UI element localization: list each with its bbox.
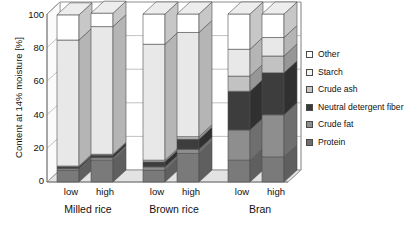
legend-swatch-crude-fat xyxy=(306,121,313,128)
legend-swatch-protein xyxy=(306,139,313,146)
legend-item-starch: Starch xyxy=(306,64,418,82)
bar-column-0 xyxy=(57,3,92,182)
legend-swatch-neutral-detergent-fiber xyxy=(306,104,313,111)
x-category-label-0: low xyxy=(55,186,87,197)
x-group-label-brown-rice: Brown rice xyxy=(138,203,210,215)
chart-figure: Content at 14% moisture [%] 100 80 60 40… xyxy=(0,0,419,232)
bar-column-1 xyxy=(91,1,126,182)
bar-column-5 xyxy=(262,2,297,182)
legend-swatch-starch xyxy=(306,69,313,76)
x-category-label-5: high xyxy=(260,186,292,197)
x-category-label-2: low xyxy=(141,186,173,197)
legend-label-crude-ash: Crude ash xyxy=(318,85,358,94)
bar-column-4 xyxy=(228,2,263,182)
legend-item-crude-fat: Crude fat xyxy=(306,116,418,134)
legend-label-crude-fat: Crude fat xyxy=(318,120,353,129)
legend-swatch-crude-ash xyxy=(306,86,313,93)
legend: Other Starch Crude ash Neutral detergent… xyxy=(306,46,418,151)
bar-column-2 xyxy=(143,2,178,182)
legend-label-protein: Protein xyxy=(318,138,345,147)
legend-item-neutral-detergent-fiber: Neutral detergent fiber xyxy=(306,99,418,117)
legend-swatch-other xyxy=(306,51,313,58)
legend-label-neutral-detergent-fiber: Neutral detergent fiber xyxy=(318,103,404,112)
x-category-label-4: low xyxy=(226,186,258,197)
bar-column-3 xyxy=(177,2,212,182)
legend-label-other: Other xyxy=(318,50,340,59)
legend-item-other: Other xyxy=(306,46,418,64)
x-category-label-1: high xyxy=(89,186,121,197)
x-group-label-milled-rice: Milled rice xyxy=(52,203,124,215)
x-group-label-bran: Bran xyxy=(232,203,288,215)
x-category-label-3: high xyxy=(175,186,207,197)
legend-label-starch: Starch xyxy=(318,68,343,77)
legend-item-crude-ash: Crude ash xyxy=(306,81,418,99)
legend-item-protein: Protein xyxy=(306,134,418,152)
